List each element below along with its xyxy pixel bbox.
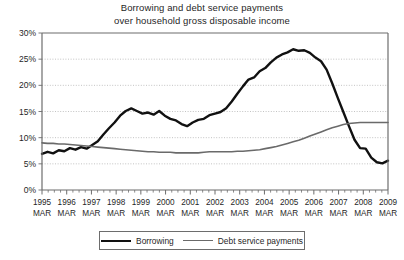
y-axis-ticks-group: 0%5%10%15%20%25%30% — [19, 28, 42, 195]
x-axis-month-label: MAR — [107, 209, 125, 218]
chart-plot-area: 0%5%10%15%20%25%30% 1995MAR1996MAR1997MA… — [0, 0, 404, 260]
y-axis-tick-label: 30% — [19, 28, 36, 38]
x-axis-year-label: 2009 — [379, 198, 398, 207]
x-axis-year-label: 2008 — [354, 198, 373, 207]
y-axis-tick-label: 10% — [19, 133, 36, 143]
x-axis-year-label: 2007 — [329, 198, 348, 207]
x-axis-month-label: MAR — [206, 209, 224, 218]
x-axis-year-label: 1999 — [132, 198, 151, 207]
x-axis-year-label: 1997 — [82, 198, 101, 207]
x-axis-month-label: MAR — [33, 209, 51, 218]
x-axis-month-label: MAR — [329, 209, 347, 218]
legend-label-debt-service: Debt service payments — [218, 236, 303, 246]
x-axis-year-label: 2006 — [305, 198, 324, 207]
x-axis-year-label: 1996 — [58, 198, 77, 207]
x-axis-month-label: MAR — [280, 209, 298, 218]
x-axis-month-label: MAR — [255, 209, 273, 218]
data-series-group — [42, 49, 388, 163]
x-axis-labels-group: 1995MAR1996MAR1997MAR1998MAR1999MAR2000M… — [33, 198, 398, 218]
x-axis-year-label: 2005 — [280, 198, 299, 207]
x-axis-month-label: MAR — [379, 209, 397, 218]
x-axis-month-label: MAR — [156, 209, 174, 218]
legend-item-borrowing: Borrowing — [101, 236, 174, 246]
x-axis-year-label: 2001 — [181, 198, 200, 207]
y-axis-tick-label: 5% — [24, 159, 37, 169]
legend-label-borrowing: Borrowing — [136, 236, 174, 246]
y-axis-tick-label: 15% — [19, 107, 36, 117]
gridlines-group — [42, 59, 388, 164]
chart-figure: Borrowing and debt service payments over… — [0, 0, 404, 260]
x-axis-year-label: 2002 — [206, 198, 225, 207]
legend-line-icon-borrowing — [101, 240, 131, 242]
x-axis-year-label: 2004 — [255, 198, 274, 207]
x-axis-month-label: MAR — [181, 209, 199, 218]
y-axis-tick-label: 20% — [19, 80, 36, 90]
x-axis-ticks-group — [42, 190, 388, 195]
y-axis-tick-label: 25% — [19, 54, 36, 64]
chart-legend: Borrowing Debt service payments — [99, 231, 305, 250]
x-axis-year-label: 2000 — [156, 198, 175, 207]
x-axis-month-label: MAR — [132, 209, 150, 218]
x-axis-month-label: MAR — [354, 209, 372, 218]
x-axis-month-label: MAR — [82, 209, 100, 218]
legend-line-icon-debt-service — [183, 240, 213, 241]
legend-item-debt-service: Debt service payments — [183, 236, 303, 246]
x-axis-year-label: 1995 — [33, 198, 52, 207]
y-axis-tick-label: 0% — [24, 185, 37, 195]
x-axis-month-label: MAR — [58, 209, 76, 218]
x-axis-year-label: 1998 — [107, 198, 126, 207]
x-axis-month-label: MAR — [231, 209, 249, 218]
x-axis-month-label: MAR — [305, 209, 323, 218]
x-axis-year-label: 2003 — [231, 198, 250, 207]
